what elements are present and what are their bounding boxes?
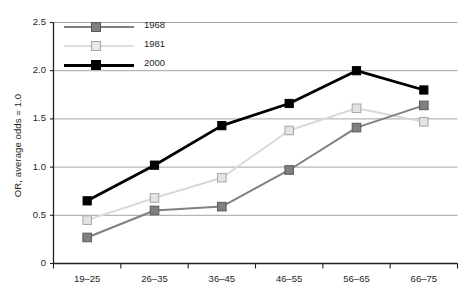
y-tick-label-0: 0: [12, 257, 46, 268]
legend-label-2000: 2000: [144, 57, 165, 68]
legend-item-1968: 1968: [64, 20, 196, 34]
data-point-2000-56–65: [352, 67, 360, 75]
data-point-2000-66–75: [420, 86, 428, 94]
legend-marker-1968: [91, 22, 101, 32]
data-point-1981-26–35: [150, 194, 159, 203]
legend-marker-1981: [91, 41, 101, 51]
data-point-1981-56–65: [352, 104, 361, 113]
legend-label-1981: 1981: [144, 38, 165, 49]
data-point-1968-66–75: [420, 101, 429, 110]
series-line-1968: [87, 105, 424, 237]
y-tick-label-0.5: 0.5: [12, 209, 46, 220]
chart-legend: 1968 1981 2000: [64, 20, 196, 72]
data-point-1981-66–75: [420, 117, 429, 126]
data-point-1981-46–55: [285, 126, 294, 135]
x-tick-label-66–75: 66–75: [389, 273, 459, 284]
x-tick-label-56–65: 56–65: [322, 273, 392, 284]
data-point-2000-46–55: [285, 99, 293, 107]
legend-marker-2000: [91, 60, 101, 70]
legend-item-1981: 1981: [64, 39, 196, 53]
data-point-2000-36–45: [218, 122, 226, 130]
data-point-1968-36–45: [218, 202, 227, 211]
data-point-1968-26–35: [150, 206, 159, 215]
series-line-2000: [87, 71, 424, 201]
x-tick-label-26–35: 26–35: [120, 273, 190, 284]
y-tick-label-1.5: 1.5: [12, 112, 46, 123]
data-point-1968-19–25: [83, 233, 92, 242]
chart-container: OR, average odds = 1.0 1968 1981 2000 00…: [0, 0, 471, 299]
x-tick-label-36–45: 36–45: [187, 273, 257, 284]
data-point-1968-56–65: [352, 123, 361, 132]
y-tick-label-2.5: 2.5: [12, 16, 46, 27]
y-tick-label-2.0: 2.0: [12, 64, 46, 75]
legend-label-1968: 1968: [144, 19, 165, 30]
data-point-2000-26–35: [150, 161, 158, 169]
data-point-2000-19–25: [83, 197, 91, 205]
legend-item-2000: 2000: [64, 58, 196, 72]
y-tick-label-1.0: 1.0: [12, 161, 46, 172]
data-point-1981-19–25: [83, 216, 92, 225]
x-tick-label-46–55: 46–55: [254, 273, 324, 284]
x-tick-label-19–25: 19–25: [52, 273, 122, 284]
data-point-1968-46–55: [285, 166, 294, 175]
series-line-1981: [87, 108, 424, 220]
data-point-1981-36–45: [218, 173, 227, 182]
